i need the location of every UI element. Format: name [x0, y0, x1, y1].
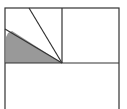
geometry-diagram [0, 0, 127, 109]
